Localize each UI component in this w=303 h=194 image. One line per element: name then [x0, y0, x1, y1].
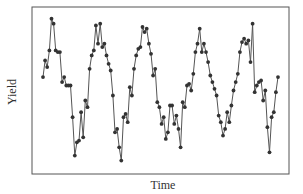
data-point — [100, 45, 104, 49]
data-point — [41, 75, 45, 79]
data-point — [48, 49, 52, 53]
data-point — [69, 84, 73, 88]
data-point — [204, 50, 208, 54]
data-point — [98, 22, 102, 26]
data-point — [274, 90, 278, 94]
data-point — [113, 130, 117, 134]
data-point — [230, 104, 234, 108]
data-point — [187, 82, 191, 86]
data-point — [45, 65, 49, 69]
data-point — [221, 134, 225, 138]
data-point — [253, 90, 257, 94]
data-point — [175, 114, 179, 118]
data-point — [208, 74, 212, 78]
data-point — [143, 30, 147, 34]
data-point — [122, 115, 126, 119]
data-point — [124, 112, 128, 116]
data-point — [261, 99, 265, 103]
data-point — [266, 125, 270, 129]
data-point — [181, 100, 185, 104]
data-point — [86, 105, 90, 109]
data-point — [211, 80, 215, 84]
data-point — [166, 130, 170, 134]
data-point — [244, 42, 248, 46]
data-point — [73, 154, 77, 158]
data-point — [134, 54, 138, 58]
data-point — [270, 115, 274, 119]
data-point — [128, 85, 132, 89]
data-point — [43, 59, 47, 63]
x-axis-label: Time — [151, 178, 176, 193]
data-point — [92, 49, 96, 53]
data-point — [247, 39, 251, 43]
data-point — [130, 94, 134, 98]
data-point — [191, 72, 195, 76]
data-point — [158, 105, 162, 109]
data-point — [272, 110, 276, 114]
data-point — [213, 87, 217, 91]
data-point — [77, 139, 81, 143]
data-point — [196, 42, 200, 46]
data-point — [177, 127, 181, 131]
data-point — [139, 45, 143, 49]
data-point — [151, 74, 155, 78]
data-point — [103, 42, 107, 46]
data-point — [200, 50, 204, 54]
data-point — [238, 50, 242, 54]
data-point — [236, 72, 240, 76]
data-point — [111, 94, 115, 98]
data-point — [149, 52, 153, 56]
data-point — [206, 60, 210, 64]
data-point — [276, 75, 280, 79]
data-point — [164, 137, 168, 141]
data-point — [71, 115, 75, 119]
data-point — [109, 69, 113, 73]
data-point — [217, 114, 221, 118]
y-axis-label: Yield — [5, 79, 20, 105]
data-point — [202, 42, 206, 46]
data-point — [232, 89, 236, 93]
data-point — [155, 100, 159, 104]
data-point — [234, 80, 238, 84]
data-point — [58, 50, 62, 54]
data-point — [145, 27, 149, 31]
data-point — [219, 120, 223, 124]
data-point — [251, 22, 255, 26]
data-point — [96, 42, 100, 46]
data-point — [194, 50, 198, 54]
data-point — [249, 60, 253, 64]
data-point — [141, 25, 145, 29]
data-point — [50, 17, 54, 21]
data-point — [242, 37, 246, 41]
data-point — [160, 122, 164, 126]
data-point — [115, 127, 119, 131]
data-point — [170, 104, 174, 108]
data-point — [88, 67, 92, 71]
data-point — [263, 89, 267, 93]
data-point — [162, 115, 166, 119]
data-point — [223, 127, 227, 131]
data-point — [105, 54, 109, 58]
data-point — [83, 99, 87, 103]
data-point — [126, 120, 130, 124]
data-point — [240, 40, 244, 44]
data-point — [147, 42, 151, 46]
data-point — [107, 62, 111, 66]
data-point — [153, 67, 157, 71]
data-point — [94, 24, 98, 28]
data-point — [179, 145, 183, 149]
data-point — [172, 122, 176, 126]
data-point — [225, 110, 229, 114]
data-point — [183, 105, 187, 109]
data-point — [81, 135, 85, 139]
data-point — [62, 75, 66, 79]
data-point — [52, 22, 56, 26]
data-point — [259, 79, 263, 83]
data-point — [132, 67, 136, 71]
data-point — [215, 94, 219, 98]
line-chart — [0, 0, 303, 194]
data-point — [268, 150, 272, 154]
data-point — [79, 110, 83, 114]
data-point — [189, 89, 193, 93]
data-point — [60, 80, 64, 84]
